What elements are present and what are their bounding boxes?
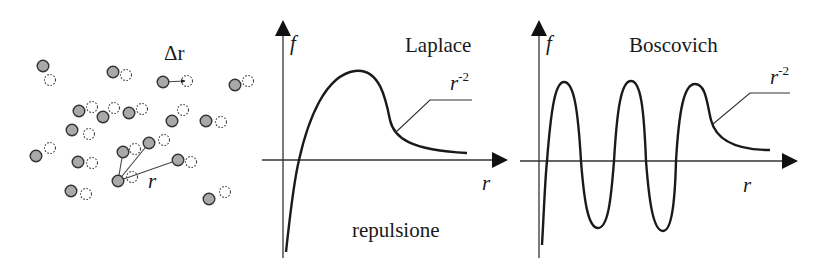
ghost-particle [178, 105, 189, 116]
ghost-particle [109, 103, 120, 114]
laplace-y-arrow-icon [275, 20, 291, 36]
figure-canvas: Δr r f Laplace r-2 r repulsione f Boscov… [0, 0, 816, 272]
boscovich-r-label: r [743, 173, 752, 197]
laplace-tail-leader [395, 100, 472, 133]
particle [72, 156, 84, 168]
particle [107, 66, 119, 78]
ghost-particle [87, 158, 98, 169]
boscovich-f-label: f [546, 31, 555, 55]
particle [143, 137, 155, 149]
particle [157, 76, 169, 88]
particle-diagram [30, 60, 253, 205]
laplace-tail-label: r-2 [450, 69, 469, 95]
ghost-particle [130, 144, 141, 155]
ghost-particle [159, 135, 170, 146]
ghost-particle [121, 70, 132, 81]
repulsion-label: repulsione [352, 218, 439, 242]
particle [200, 115, 212, 127]
ghost-particle [186, 157, 197, 168]
particle [203, 193, 215, 205]
particle [166, 115, 178, 127]
ghost-particle [84, 129, 95, 140]
laplace-f-label: f [290, 31, 299, 55]
ghost-particle [45, 143, 56, 154]
particle [66, 124, 78, 136]
ghost-particle [81, 189, 92, 200]
ghost-particle [243, 76, 254, 87]
boscovich-tail-label: r-2 [770, 63, 789, 89]
ghost-particle [216, 117, 227, 128]
particle [30, 150, 42, 162]
figure: Δr r f Laplace r-2 r repulsione f Boscov… [0, 0, 816, 272]
r-distance-label: r [148, 169, 157, 193]
ghost-particle [137, 104, 148, 115]
boscovich-tail-leader [713, 93, 790, 124]
particle [172, 154, 184, 166]
particle [73, 105, 85, 117]
particle [97, 111, 109, 123]
boscovich-title: Boscovich [629, 33, 718, 57]
ghost-particle [220, 187, 231, 198]
ghost-particle [87, 102, 98, 113]
boscovich-y-arrow-icon [531, 20, 547, 36]
laplace-title: Laplace [405, 33, 471, 57]
particle [117, 146, 129, 158]
particle [123, 107, 135, 119]
laplace-r-label: r [482, 171, 491, 195]
ghost-particle [45, 75, 56, 86]
boscovich-x-arrow-icon [782, 153, 798, 169]
particle [229, 79, 241, 91]
particle [65, 185, 77, 197]
particle [37, 60, 49, 72]
particle [112, 175, 124, 187]
laplace-x-arrow-icon [492, 152, 508, 168]
delta-r-label: Δr [164, 41, 185, 65]
